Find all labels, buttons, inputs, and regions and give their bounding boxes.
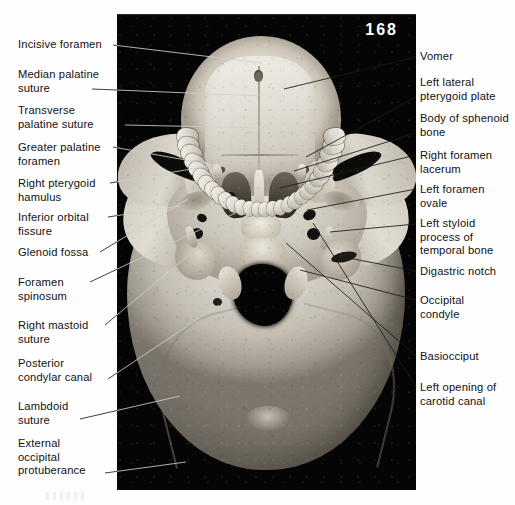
page-number: 168	[365, 21, 398, 39]
label-left-styloid-process: Left styloid process of temporal bone	[420, 217, 493, 258]
skull-photograph-plate: 168	[117, 14, 416, 490]
leader-line-posterior-condylar-canal	[108, 373, 117, 379]
label-right-mastoid-suture: Right mastoid suture	[18, 319, 88, 346]
label-left-lateral-pterygoid-plate: Left lateral pterygoid plate	[420, 76, 496, 103]
label-lambdoid-suture: Lambdoid suture	[18, 400, 68, 427]
label-incisive-foramen: Incisive foramen	[18, 38, 102, 52]
transverse-palatine-suture-feature	[221, 154, 299, 156]
median-palatine-suture-feature	[258, 66, 260, 178]
label-basiocciput: Basiocciput	[420, 350, 479, 364]
leader-line-external-occipital-protuberance	[105, 471, 117, 473]
external-occipital-protuberance-feature	[245, 406, 291, 432]
label-external-occipital-protuberance: External occipital protuberance	[18, 437, 86, 478]
label-left-opening-of-carotid-canal: Left opening of carotid canal	[420, 381, 496, 408]
label-transverse-palatine-suture: Transverse palatine suture	[18, 104, 94, 131]
anatomy-figure: 168 Incisive foramenMedian palatine sutu…	[0, 0, 515, 505]
leader-line-lambdoid-suture	[80, 410, 117, 419]
label-median-palatine-suture: Median palatine suture	[18, 68, 99, 95]
page-scan-artifact	[46, 492, 86, 500]
label-occipital-condyle: Occipital condyle	[420, 294, 464, 321]
label-posterior-condylar-canal: Posterior condylar canal	[18, 357, 92, 384]
label-body-of-sphenoid-bone: Body of sphenoid bone	[420, 112, 509, 139]
label-inferior-orbital-fissure: Inferior orbital fissure	[18, 211, 89, 238]
leader-line-inferior-orbital-fissure	[108, 216, 117, 217]
label-right-pterygoid-hamulus: Right pterygoid hamulus	[18, 177, 96, 204]
carotid-canal-left	[307, 228, 320, 240]
label-vomer: Vomer	[420, 50, 453, 64]
label-glenoid-fossa: Glenoid fossa	[18, 246, 88, 260]
leader-line-foramen-spinosum	[90, 269, 117, 282]
leader-line-right-mastoid-suture	[105, 315, 117, 325]
leader-line-glenoid-fossa	[100, 242, 117, 252]
label-right-foramen-lacerum: Right foramen lacerum	[420, 149, 492, 176]
plate-top-edge	[117, 14, 416, 15]
posterior-condylar-canal-feature	[213, 298, 222, 306]
label-digastric-notch: Digastric notch	[420, 265, 496, 279]
incisive-foramen-feature	[254, 70, 263, 82]
leader-line-right-pterygoid-hamulus	[110, 182, 117, 183]
label-foramen-spinosum: Foramen spinosum	[18, 276, 67, 303]
label-greater-palatine-foramen: Greater palatine foramen	[18, 141, 101, 168]
body-of-sphenoid-feature	[241, 214, 281, 240]
label-left-foramen-ovale: Left foramen ovale	[420, 183, 485, 210]
